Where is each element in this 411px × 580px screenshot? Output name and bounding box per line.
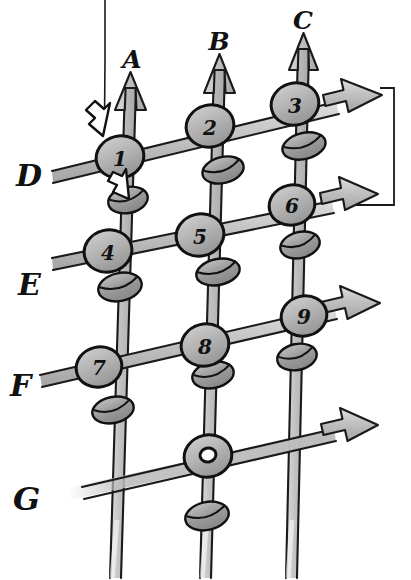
node-5-label: 5	[193, 225, 207, 249]
vertical-rail-A-label: A	[120, 45, 141, 74]
bead[interactable]	[183, 498, 232, 535]
node-2-label: 2	[202, 116, 217, 140]
horizontal-rail-G-label: G	[13, 480, 40, 518]
horizontal-rail-F-label: F	[9, 368, 34, 403]
bead[interactable]	[90, 393, 136, 427]
top-left-leader	[105, 0, 106, 118]
horizontal-rail-D-label: D	[15, 158, 42, 193]
bead[interactable]	[275, 340, 320, 374]
bead[interactable]	[194, 255, 242, 290]
diagram-canvas: A B C D	[0, 0, 411, 580]
callout-arrow-to-node1	[86, 101, 110, 136]
vertical-rail-C-label: C	[293, 6, 313, 35]
horizontal-rail-E-label: E	[17, 267, 42, 302]
node-7-label: 7	[92, 356, 106, 380]
bead[interactable]	[96, 269, 145, 306]
bead[interactable]	[199, 152, 246, 187]
node-3-label: 3	[288, 94, 302, 118]
node-6-label: 6	[285, 194, 299, 218]
vertical-rail-B-label: B	[207, 27, 229, 56]
bead[interactable]	[277, 228, 322, 263]
node-8-label: 8	[197, 335, 212, 359]
bead[interactable]	[280, 128, 329, 164]
node-9[interactable]: 9	[277, 291, 331, 341]
vertical-rail-A[interactable]: A	[110, 45, 146, 578]
lattice-diagram-svg: A B C D	[0, 0, 411, 580]
node-4-label: 4	[101, 241, 115, 265]
node-1-label: 1	[113, 147, 127, 171]
node-9-label: 9	[297, 305, 311, 329]
